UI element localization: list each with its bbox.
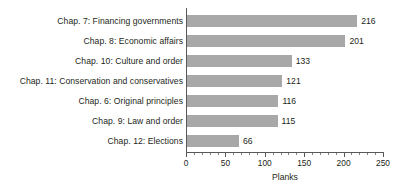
category-label: Chap. 10: Culture and order	[0, 56, 183, 66]
category-label: Chap. 11: Conservation and conservatives	[0, 76, 183, 86]
y-axis-line	[186, 8, 187, 153]
plot-area: 216 201 133 121 116 115 66	[187, 8, 406, 152]
x-tick-minor	[320, 153, 321, 155]
x-tick-major	[225, 153, 226, 157]
bar[interactable]	[187, 95, 278, 107]
x-tick-minor	[328, 153, 329, 155]
bar-value-label: 116	[282, 96, 296, 106]
bar-value-label: 121	[286, 76, 300, 86]
x-tick-minor	[241, 153, 242, 155]
x-tick-major	[383, 153, 384, 157]
x-tick-minor	[257, 153, 258, 155]
category-label: Chap. 8: Economic affairs	[0, 36, 183, 46]
bar[interactable]	[187, 75, 282, 87]
x-tick-major	[265, 153, 266, 157]
category-label: Chap. 7: Financing governments	[0, 16, 183, 26]
x-tick-minor	[312, 153, 313, 155]
x-tick-label: 250	[376, 158, 390, 168]
category-label: Chap. 6: Original principles	[0, 96, 183, 106]
bar-value-label: 115	[282, 116, 296, 126]
bar-chart: Chap. 7: Financing governments Chap. 8: …	[0, 0, 406, 193]
bar-value-label: 216	[361, 16, 375, 26]
x-tick-label: 200	[337, 158, 351, 168]
category-label: Chap. 9: Law and order	[0, 116, 183, 126]
x-tick-minor	[233, 153, 234, 155]
bar[interactable]	[187, 15, 357, 27]
x-tick-minor	[210, 153, 211, 155]
x-axis-line	[186, 152, 384, 153]
x-tick-minor	[194, 153, 195, 155]
x-tick-minor	[296, 153, 297, 155]
x-tick-label: 150	[297, 158, 311, 168]
x-tick-minor	[367, 153, 368, 155]
x-axis-title: Planks	[186, 172, 384, 182]
bar-value-label: 133	[296, 56, 310, 66]
x-tick-minor	[249, 153, 250, 155]
category-axis-labels: Chap. 7: Financing governments Chap. 8: …	[0, 0, 183, 152]
x-tick-minor	[273, 153, 274, 155]
x-tick-major	[304, 153, 305, 157]
bar[interactable]	[187, 55, 292, 67]
x-tick-label: 50	[221, 158, 230, 168]
x-tick-minor	[288, 153, 289, 155]
bar-value-label: 201	[349, 36, 363, 46]
bar[interactable]	[187, 115, 278, 127]
x-tick-label: 0	[184, 158, 189, 168]
x-tick-label: 100	[258, 158, 272, 168]
category-label: Chap. 12: Elections	[0, 136, 183, 146]
x-tick-minor	[281, 153, 282, 155]
x-tick-major	[186, 153, 187, 157]
x-tick-minor	[218, 153, 219, 155]
x-tick-minor	[202, 153, 203, 155]
x-tick-minor	[336, 153, 337, 155]
x-tick-minor	[375, 153, 376, 155]
x-tick-major	[344, 153, 345, 157]
bar-value-label: 66	[243, 136, 253, 146]
x-tick-minor	[359, 153, 360, 155]
bar[interactable]	[187, 35, 345, 47]
x-tick-minor	[351, 153, 352, 155]
bar[interactable]	[187, 135, 239, 147]
